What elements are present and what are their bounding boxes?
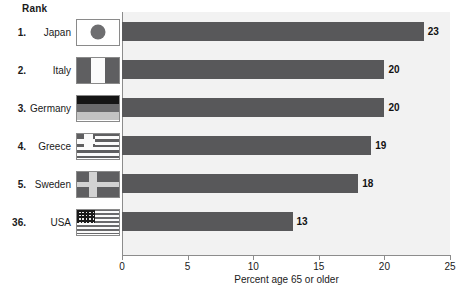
country-name: Germany: [30, 103, 76, 114]
flag-italy-icon: [76, 57, 120, 84]
rank-number: 5.: [0, 179, 30, 190]
x-tick: [384, 255, 385, 260]
chart-row: 36.USA: [0, 207, 120, 237]
chart-row: 2.Italy: [0, 55, 120, 85]
x-tick-label: 5: [185, 261, 191, 272]
x-tick: [122, 255, 123, 260]
x-tick: [450, 255, 451, 260]
bar-value-label: 19: [375, 136, 386, 155]
chart-row: 4.Greece: [0, 131, 120, 161]
rank-number: 36.: [0, 217, 30, 228]
x-tick: [188, 255, 189, 260]
flag-sweden-icon: [76, 171, 120, 198]
bar: [122, 98, 384, 117]
bar-value-label: 18: [362, 174, 373, 193]
chart-row: 5.Sweden: [0, 169, 120, 199]
x-tick-label: 15: [313, 261, 324, 272]
rank-number: 1.: [0, 27, 30, 38]
rank-number: 2.: [0, 65, 30, 76]
x-axis-title: Percent age 65 or older: [122, 274, 451, 285]
x-tick: [319, 255, 320, 260]
bar: [122, 22, 424, 41]
x-axis-line: [122, 255, 451, 256]
bar-value-label: 20: [388, 98, 399, 117]
x-tick: [253, 255, 254, 260]
country-name: Italy: [30, 65, 76, 76]
bar: [122, 174, 358, 193]
flag-japan-icon: [76, 19, 120, 46]
country-name: USA: [30, 217, 76, 228]
bar: [122, 136, 371, 155]
x-tick-label: 20: [379, 261, 390, 272]
bar: [122, 60, 384, 79]
bar-chart: Rank 1.Japan2.Italy3.Germany4.Greece5.Sw…: [0, 0, 462, 289]
bar-value-label: 20: [388, 60, 399, 79]
flag-usa-icon: [76, 209, 120, 236]
country-name: Sweden: [30, 179, 76, 190]
bar-value-label: 13: [297, 212, 308, 231]
x-tick-label: 0: [119, 261, 125, 272]
chart-row: 1.Japan: [0, 17, 120, 47]
country-name: Greece: [30, 141, 76, 152]
flag-germany-icon: [76, 95, 120, 122]
rank-number: 3.: [0, 103, 30, 114]
flag-greece-icon: [76, 133, 120, 160]
country-name: Japan: [30, 27, 76, 38]
bar-value-label: 23: [428, 22, 439, 41]
rank-column-header: Rank: [22, 3, 47, 14]
chart-row: 3.Germany: [0, 93, 120, 123]
x-tick-label: 10: [248, 261, 259, 272]
x-tick-label: 25: [444, 261, 455, 272]
rank-number: 4.: [0, 141, 30, 152]
bar: [122, 212, 293, 231]
